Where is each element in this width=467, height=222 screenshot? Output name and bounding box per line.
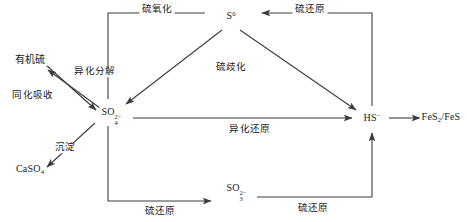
node-bisulfide-sup: − [377, 112, 381, 119]
edge-disproportionation-to-sulfate [126, 30, 222, 104]
node-iron-sulfides: FeS2/FeS [420, 112, 463, 123]
node-elemental-sulfur: S0 [224, 11, 237, 22]
node-caso4-sub: 4 [41, 168, 44, 175]
edge-label-dissimilatory-reduction-text: 异化还原 [229, 124, 270, 134]
edge-label-precipitation: 沉淀 [53, 143, 78, 153]
node-organic-sulfur-label: 有机硫 [15, 54, 46, 65]
edge-label-dissimilatory-decomposition: 异化分解 [72, 67, 117, 77]
node-caso4: CaSO4 [14, 164, 46, 175]
edge-label-assimilatory-uptake-text: 同化吸收 [12, 90, 53, 100]
node-elemental-sulfur-sup: 0 [232, 10, 235, 17]
edge-label-assimilatory-uptake: 同化吸收 [10, 91, 55, 101]
edge-sulfate-to-sulfite [108, 126, 211, 201]
node-bisulfide-label: HS [363, 112, 376, 123]
edge-label-dissimilatory-decomposition-text: 异化分解 [74, 66, 115, 76]
node-bisulfide: HS− [361, 113, 382, 124]
edge-label-sulfur-reduction-top-text: 硫还原 [295, 4, 326, 14]
node-iron-sulfides-label: FeS [422, 111, 438, 122]
edge-label-sulfur-oxidation-top-text: 硫氧化 [142, 4, 173, 14]
edge-label-precipitation-text: 沉淀 [55, 142, 76, 152]
edge-label-sulfur-reduction-bottom-left-text: 硫还原 [145, 206, 176, 216]
edge-label-dissimilatory-reduction: 异化还原 [227, 125, 272, 135]
edge-label-sulfur-reduction-bottom-left: 硫还原 [143, 207, 178, 217]
node-sulfite-label: SO [226, 182, 239, 193]
sulfur-cycle-diagram: 有机硫 CaSO4 SO2−4 S0 SO2−3 HS− FeS2/FeS 硫氧… [0, 0, 467, 222]
edge-label-sulfur-disproportionation: 硫歧化 [214, 63, 249, 73]
edge-label-sulfur-reduction-bottom-right-text: 硫还原 [298, 203, 329, 213]
edge-bisulfide-to-elemental-sulfur [262, 13, 372, 106]
node-sulfite: SO2−3 [224, 183, 241, 194]
node-caso4-label: CaSO [16, 163, 41, 174]
edge-label-sulfur-reduction-bottom-right: 硫还原 [296, 204, 331, 214]
node-organic-sulfur: 有机硫 [13, 55, 48, 66]
edge-sulfate-to-elemental-sulfur [108, 13, 205, 99]
edge-label-sulfur-reduction-top: 硫还原 [293, 5, 328, 15]
edge-label-sulfur-disproportionation-text: 硫歧化 [216, 62, 247, 72]
node-sulfate-label: SO [101, 106, 114, 117]
edge-label-sulfur-oxidation-top: 硫氧化 [140, 5, 175, 15]
node-iron-sulfides-suffix: /FeS [441, 111, 460, 122]
edge-disproportionation-to-bisulfide [240, 30, 356, 110]
node-sulfate: SO2−4 [99, 107, 116, 118]
edge-sulfite-to-bisulfide [257, 133, 372, 197]
